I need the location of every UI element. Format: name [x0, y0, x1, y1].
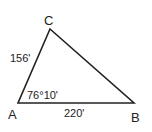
angle-label-a: 76°10': [27, 89, 58, 101]
vertex-label-a: A: [8, 107, 17, 122]
side-label-ab: 220': [64, 107, 84, 119]
triangle-diagram: C A B 156' 76°10' 220': [0, 0, 152, 132]
side-label-ac: 156': [10, 52, 30, 64]
vertex-label-b: B: [131, 110, 140, 125]
vertex-label-c: C: [44, 13, 53, 28]
